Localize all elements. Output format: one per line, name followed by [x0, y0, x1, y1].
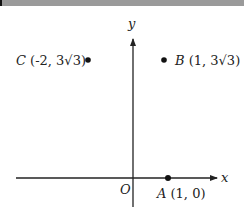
coordinate-diagram: x y O A (1, 0) B (1, 3√3) C (-2, 3√3) [0, 0, 244, 219]
point-b-dot [161, 57, 167, 63]
origin-label: O [120, 182, 131, 197]
point-a-label: A (1, 0) [156, 186, 205, 201]
y-axis-label: y [127, 16, 136, 31]
point-a-dot [165, 175, 171, 181]
point-b-label: B (1, 3√3) [174, 53, 240, 68]
point-c-label: C (-2, 3√3) [16, 53, 86, 68]
point-c-dot [85, 57, 91, 63]
x-axis-label: x [221, 170, 229, 185]
